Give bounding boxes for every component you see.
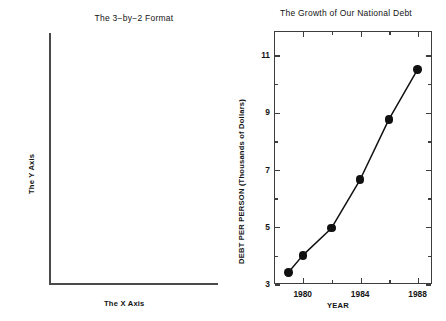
- y-tick-major: [426, 284, 431, 285]
- y-tick-label: 9: [265, 107, 270, 117]
- data-point-marker: [284, 268, 292, 276]
- data-point-marker: [385, 115, 393, 123]
- debt-line-path: [274, 31, 432, 284]
- debt-line: [288, 69, 417, 272]
- data-point-marker: [356, 175, 364, 183]
- y-tick-label: 11: [261, 50, 270, 60]
- y-tick-major: [275, 284, 280, 285]
- y-tick-label: 7: [265, 165, 270, 175]
- y-axis-title: DEBT PER PERSON (Thousands of Dollars): [237, 99, 246, 264]
- chart-title: The Growth of Our National Debt: [256, 8, 436, 18]
- data-point-marker: [299, 251, 307, 259]
- y-tick-label: 5: [265, 222, 270, 232]
- data-point-marker: [327, 224, 335, 232]
- data-series-layer: [274, 31, 432, 284]
- figure-canvas: The 3−by−2 Format The X Axis The Y Axis …: [0, 0, 446, 321]
- x-tick-label: 1980: [293, 289, 312, 299]
- x-axis-title: YEAR: [327, 301, 349, 310]
- data-point-marker: [413, 65, 421, 73]
- x-tick-label: 1988: [408, 289, 427, 299]
- y-tick-label: 3: [265, 279, 270, 289]
- line-chart-panel: The Growth of Our National Debt 357911 1…: [0, 0, 446, 321]
- x-tick-label: 1984: [351, 289, 370, 299]
